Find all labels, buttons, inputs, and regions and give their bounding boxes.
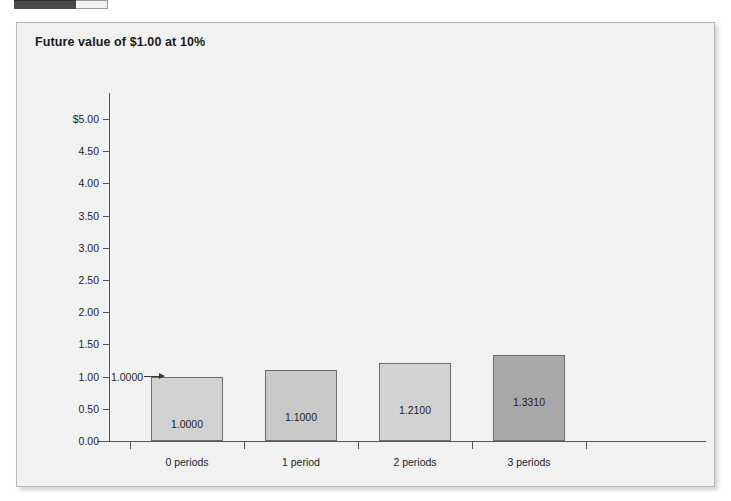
- x-axis-category-label: 2 periods: [355, 456, 475, 468]
- chart-panel: Future value of $1.00 at 10% $5.004.504.…: [16, 22, 715, 487]
- y-axis-tick-label: 4.50: [49, 145, 99, 157]
- bar-value-label: 1.1000: [266, 411, 336, 423]
- x-axis-category-label: 1 period: [241, 456, 361, 468]
- y-axis-tick-label: 0.00: [49, 435, 99, 447]
- y-axis-tick-mark: [103, 151, 110, 152]
- value-annotation: 1.0000: [111, 370, 164, 384]
- y-axis-tick-label: 3.50: [49, 210, 99, 222]
- y-axis-tick-label: $5.00: [49, 113, 99, 125]
- x-axis-line: [97, 441, 706, 442]
- bar-value-label: 1.0000: [152, 418, 222, 430]
- x-axis-tick-mark: [586, 442, 587, 449]
- y-axis-tick-mark: [103, 312, 110, 313]
- bar: 1.1000: [265, 370, 337, 441]
- y-axis-tick-mark: [103, 377, 110, 378]
- toolbar-fragment-dark-segment: [14, 0, 76, 9]
- y-axis-tick-label: 1.50: [49, 338, 99, 350]
- x-axis-tick-mark: [244, 442, 245, 449]
- y-axis-tick-label: 1.00: [49, 371, 99, 383]
- x-axis-category-label: 3 periods: [469, 456, 589, 468]
- bar: 1.0000: [151, 377, 223, 441]
- y-axis-tick-mark: [103, 216, 110, 217]
- y-axis-tick-mark: [103, 441, 110, 442]
- y-axis-tick-mark: [103, 119, 110, 120]
- y-axis-tick-mark: [103, 183, 110, 184]
- y-axis-tick-label: 3.00: [49, 242, 99, 254]
- y-axis-tick-mark: [103, 280, 110, 281]
- bar-value-label: 1.3310: [494, 396, 564, 408]
- x-axis-category-label: 0 periods: [127, 456, 247, 468]
- toolbar-fragment-light-segment: [76, 0, 108, 9]
- y-axis-tick-mark: [103, 248, 110, 249]
- arrow-right-icon: [144, 376, 164, 377]
- y-axis-line: [109, 93, 110, 441]
- bar-value-label: 1.2100: [380, 404, 450, 416]
- y-axis-tick-mark: [103, 344, 110, 345]
- x-axis-tick-mark: [358, 442, 359, 449]
- y-axis-tick-label: 2.50: [49, 274, 99, 286]
- bar: 1.3310: [493, 355, 565, 441]
- x-axis-tick-mark: [472, 442, 473, 449]
- bar: 1.2100: [379, 363, 451, 441]
- y-axis-tick-label: 0.50: [49, 403, 99, 415]
- y-axis-tick-label: 4.00: [49, 177, 99, 189]
- x-axis-tick-mark: [130, 442, 131, 449]
- value-annotation-label: 1.0000: [111, 371, 143, 383]
- cut-off-toolbar-fragment: [14, 0, 108, 9]
- y-axis-tick-label: 2.00: [49, 306, 99, 318]
- y-axis-tick-mark: [103, 409, 110, 410]
- plot-area: $5.004.504.003.503.002.502.001.501.000.5…: [17, 23, 716, 488]
